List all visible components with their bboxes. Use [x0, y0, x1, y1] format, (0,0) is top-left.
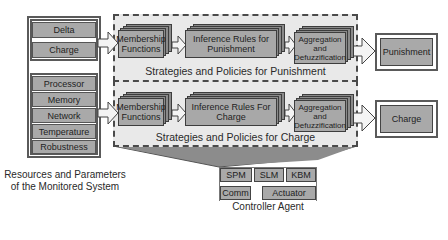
aggregation-punishment-line3: Defuzzification [294, 53, 346, 62]
arrow-inputs-to-membership-charge [98, 102, 118, 124]
aggregation-charge-line3: Defuzzification [294, 121, 346, 130]
aggregation-charge-line2: and [294, 112, 346, 121]
charge-section-label: Strategies and Policies for Charge [113, 131, 358, 143]
inference-punishment-line1: Inference Rules for [193, 34, 269, 44]
agent-module-kbm: KBM [286, 168, 316, 182]
punishment-section-label: Strategies and Policies for Punishment [113, 65, 358, 77]
inference-charge-line2: Charge [191, 112, 270, 122]
inference-charge-line1: Inference Rules For [191, 102, 270, 112]
agent-module-spm-label: SPM [226, 170, 246, 180]
inference-rules-charge: Inference Rules For Charge [185, 92, 287, 126]
arrow-membership-to-inference-punishment [172, 36, 186, 54]
agent-module-comm: Comm [220, 186, 251, 200]
agent-module-actuator-label: Actuator [272, 188, 306, 198]
output-punishment-label: Punishment [383, 47, 431, 57]
agent-module-slm: SLM [254, 168, 284, 182]
inference-punishment-line2: Punishment [193, 44, 269, 54]
aggregation-punishment-line1: Aggregation [294, 35, 346, 44]
arrow-inputs-to-membership-punishment [98, 32, 118, 54]
agent-module-kbm-label: KBM [291, 170, 311, 180]
aggregation-charge-line1: Aggregation [294, 103, 346, 112]
membership-functions-charge: Membership Functions [118, 92, 174, 126]
agent-module-actuator: Actuator [262, 186, 316, 200]
arrow-membership-to-inference-charge [172, 104, 186, 122]
aggregation-defuzzification-punishment: Aggregation and Defuzzification [294, 26, 354, 64]
membership-functions-punishment: Membership Functions [118, 24, 174, 58]
agent-module-spm: SPM [220, 168, 252, 182]
membership-charge-line1: Membership [116, 102, 166, 112]
agent-module-slm-label: SLM [260, 170, 279, 180]
membership-punishment-line1: Membership [116, 34, 166, 44]
membership-charge-line2: Functions [116, 112, 166, 122]
controller-agent-label: Controller Agent [200, 201, 336, 212]
output-charge: Charge [375, 100, 438, 138]
output-charge-label: Charge [392, 114, 422, 124]
aggregation-punishment-line2: and [294, 44, 346, 53]
inference-rules-punishment: Inference Rules for Punishment [185, 24, 287, 58]
membership-punishment-line2: Functions [116, 44, 166, 54]
agent-module-comm-label: Comm [222, 188, 249, 198]
output-punishment: Punishment [375, 33, 438, 71]
aggregation-defuzzification-charge: Aggregation and Defuzzification [294, 94, 354, 132]
